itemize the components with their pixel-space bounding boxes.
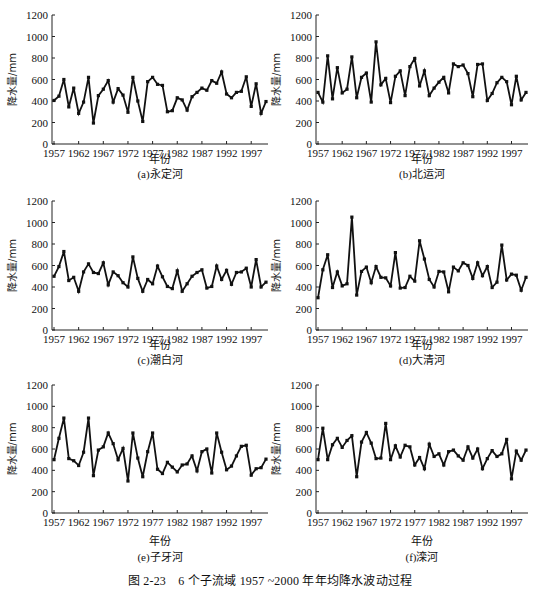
- data-point-marker: [403, 444, 406, 447]
- data-point-marker: [520, 289, 523, 292]
- data-point-marker: [205, 447, 208, 450]
- data-point-marker: [505, 278, 508, 281]
- data-point-marker: [389, 458, 392, 461]
- data-point-marker: [82, 270, 85, 273]
- data-point-marker: [57, 95, 60, 98]
- data-point-marker: [360, 270, 363, 273]
- data-point-marker: [457, 65, 460, 68]
- data-point-marker: [495, 455, 498, 458]
- data-point-marker: [77, 290, 80, 293]
- data-point-marker: [52, 99, 55, 102]
- data-point-marker: [360, 76, 363, 79]
- data-point-marker: [181, 98, 184, 101]
- data-point-marker: [331, 97, 334, 100]
- data-point-marker: [92, 121, 95, 124]
- data-point-marker: [481, 274, 484, 277]
- data-point-marker: [452, 448, 455, 451]
- data-point-marker: [92, 474, 95, 477]
- data-point-marker: [316, 296, 319, 299]
- data-point-marker: [408, 445, 411, 448]
- subplot-caption: (b)北运河: [270, 165, 528, 181]
- data-point-marker: [190, 95, 193, 98]
- data-point-marker: [166, 285, 169, 288]
- y-axis-label: 降水量/mm: [6, 239, 18, 292]
- data-point-marker: [403, 94, 406, 97]
- data-point-marker: [97, 94, 100, 97]
- data-point-marker: [432, 455, 435, 458]
- data-point-marker: [121, 281, 124, 284]
- x-tick-label: 1992: [216, 516, 238, 528]
- data-point-marker: [250, 105, 253, 108]
- precipitation-line: [54, 72, 266, 123]
- data-point-marker: [432, 285, 435, 288]
- data-point-marker: [399, 286, 402, 289]
- x-axis-label: 年份: [270, 336, 528, 352]
- data-point-marker: [200, 268, 203, 271]
- data-point-marker: [102, 261, 105, 264]
- y-axis-label: 降水量/mm: [270, 423, 282, 476]
- data-point-marker: [379, 83, 382, 86]
- data-point-marker: [57, 437, 60, 440]
- data-point-marker: [126, 111, 129, 114]
- y-axis-label: 降水量/mm: [270, 53, 282, 106]
- x-tick-label: 1967: [355, 516, 378, 528]
- precipitation-line: [318, 217, 526, 298]
- data-point-marker: [350, 216, 353, 219]
- data-point-marker: [384, 276, 387, 279]
- data-point-marker: [121, 93, 124, 96]
- data-point-marker: [336, 270, 339, 273]
- data-point-marker: [225, 92, 228, 95]
- x-tick-label: 1997: [240, 516, 263, 528]
- data-point-marker: [418, 456, 421, 459]
- data-point-marker: [156, 468, 159, 471]
- data-point-marker: [321, 100, 324, 103]
- data-point-marker: [240, 270, 243, 273]
- data-point-marker: [500, 243, 503, 246]
- data-point-marker: [447, 290, 450, 293]
- data-point-marker: [112, 270, 115, 273]
- data-point-marker: [462, 459, 465, 462]
- data-point-marker: [255, 82, 258, 85]
- x-tick-label: 1992: [476, 516, 498, 528]
- data-point-marker: [126, 285, 129, 288]
- data-point-marker: [240, 90, 243, 93]
- data-point-marker: [399, 455, 402, 458]
- data-point-marker: [423, 69, 426, 72]
- y-tick-label: 800: [296, 52, 313, 64]
- data-point-marker: [97, 448, 100, 451]
- data-point-marker: [102, 445, 105, 448]
- data-point-marker: [515, 274, 518, 277]
- y-axis-label: 降水量/mm: [270, 239, 282, 292]
- data-point-marker: [370, 281, 373, 284]
- data-point-marker: [210, 79, 213, 82]
- data-point-marker: [186, 109, 189, 112]
- data-point-marker: [462, 261, 465, 264]
- y-tick-label: 600: [296, 74, 313, 86]
- data-point-marker: [321, 268, 324, 271]
- data-point-marker: [131, 255, 134, 258]
- data-point-marker: [62, 250, 65, 253]
- y-tick-label: 400: [32, 464, 49, 476]
- x-tick-label: 1962: [68, 516, 90, 528]
- data-point-marker: [210, 471, 213, 474]
- data-point-marker: [423, 467, 426, 470]
- data-point-marker: [341, 446, 344, 449]
- data-point-marker: [413, 463, 416, 466]
- data-point-marker: [151, 431, 154, 434]
- data-point-marker: [384, 422, 387, 425]
- data-point-marker: [62, 78, 65, 81]
- data-point-marker: [141, 475, 144, 478]
- data-point-marker: [205, 89, 208, 92]
- data-point-marker: [156, 264, 159, 267]
- data-point-marker: [365, 71, 368, 74]
- data-point-marker: [491, 92, 494, 95]
- data-point-marker: [457, 269, 460, 272]
- y-tick-label: 1200: [26, 9, 49, 21]
- data-point-marker: [370, 100, 373, 103]
- data-point-marker: [428, 278, 431, 281]
- data-point-marker: [520, 98, 523, 101]
- data-point-marker: [195, 469, 198, 472]
- data-point-marker: [166, 461, 169, 464]
- x-axis-label: 年份: [0, 336, 268, 352]
- data-point-marker: [495, 81, 498, 84]
